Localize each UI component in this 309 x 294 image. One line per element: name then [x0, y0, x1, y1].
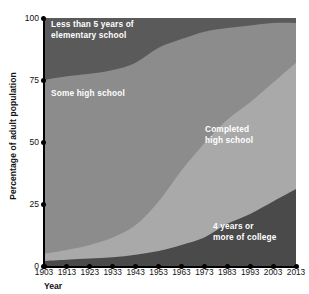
x-tick-label: 1993 [241, 268, 259, 276]
x-tick-label: 1913 [58, 268, 76, 276]
x-tick-label: 1903 [35, 268, 53, 276]
x-tick-label: 1963 [172, 268, 190, 276]
y-tick-label: 50 [15, 138, 39, 147]
area-label-completed-high-school: Completedhigh school [205, 124, 253, 145]
y-tick-label: 75 [15, 76, 39, 85]
y-tick-label: 100 [15, 14, 39, 23]
x-tick-label: 1973 [195, 268, 213, 276]
stacked-area-chart: Percentage of adult population 025507510… [0, 0, 309, 294]
area-label-some-high-school: Some high school [51, 88, 125, 99]
x-tick-label: 2013 [287, 268, 305, 276]
x-tick-label: 2003 [264, 268, 282, 276]
x-tick-label: 1953 [149, 268, 167, 276]
area-label-elementary: Less than 5 years ofelementary school [51, 19, 134, 40]
x-tick-label: 1923 [81, 268, 99, 276]
area-label-college: 4 years ormore of college [213, 221, 277, 242]
x-axis-title: Year [44, 281, 62, 291]
y-axis-tick-labels: 0255075100 [15, 0, 39, 294]
x-tick-label: 1933 [103, 268, 121, 276]
y-tick-label: 25 [15, 200, 39, 209]
x-axis-tick-labels: 1903191319231933194319531963197319831993… [44, 268, 296, 280]
x-tick-label: 1943 [126, 268, 144, 276]
x-tick-label: 1983 [218, 268, 236, 276]
